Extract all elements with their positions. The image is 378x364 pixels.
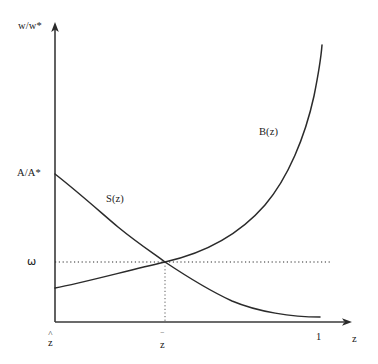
x-tick-label-z-hat: ^ z — [48, 331, 53, 348]
y-axis-label: w/w* — [18, 21, 42, 32]
y-tick-label-omega: ω — [27, 256, 36, 267]
plot-canvas — [0, 0, 378, 364]
z-bar-base: z — [160, 341, 165, 350]
bargaining-curve-bz — [55, 45, 322, 288]
supply-curve-sz — [55, 174, 320, 317]
z-hat-base: z — [48, 339, 53, 348]
x-axis — [55, 318, 352, 326]
y-axis — [51, 22, 59, 322]
curve-label-sz: S(z) — [106, 194, 124, 205]
x-axis-label: z — [352, 334, 357, 345]
economics-figure: w/w* A/A* ω S(z) B(z) ^ z ‾ z 1 z — [0, 0, 378, 364]
y-tick-label-a-over-a-star: A/A* — [17, 168, 41, 179]
x-tick-label-z-bar: ‾ z — [160, 333, 165, 350]
curve-label-bz: B(z) — [259, 127, 278, 138]
x-tick-label-one: 1 — [316, 332, 321, 343]
